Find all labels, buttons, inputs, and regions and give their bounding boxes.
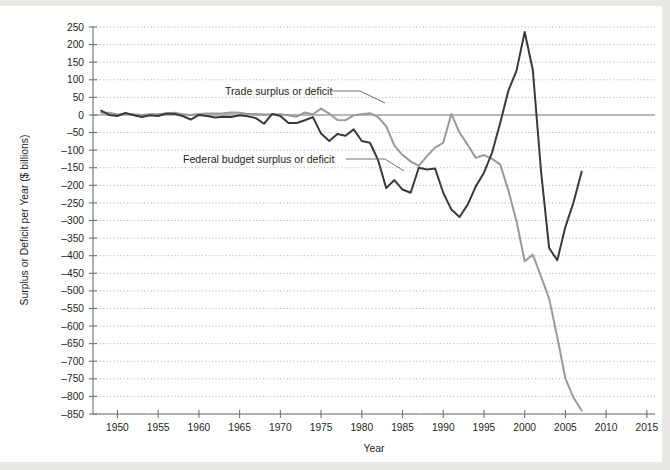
x-tick-label: 1965: [228, 422, 251, 433]
top-edge-band: [0, 0, 670, 6]
x-tick-label: 2005: [554, 422, 577, 433]
y-tick-label: –850: [61, 409, 84, 420]
x-tick-label: 1975: [310, 422, 333, 433]
y-tick-label: –450: [61, 268, 84, 279]
y-tick-label: 150: [67, 57, 84, 68]
x-tick-label: 2000: [513, 422, 536, 433]
y-axis-title: Surplus or Deficit per Year ($ billions): [19, 135, 30, 306]
right-edge-band: [662, 0, 670, 470]
y-tick-label: –250: [61, 198, 84, 209]
chart-background: [0, 0, 670, 470]
x-tick-label: 2015: [636, 422, 659, 433]
y-tick-label: –50: [67, 127, 84, 138]
budget-annotation-label: Federal budget surplus or deficit: [183, 153, 334, 165]
x-tick-label: 1990: [432, 422, 455, 433]
y-tick-label: –500: [61, 285, 84, 296]
y-tick-label: –600: [61, 321, 84, 332]
x-tick-label: 1980: [350, 422, 373, 433]
y-tick-label: –100: [61, 145, 84, 156]
bottom-edge-band: [0, 462, 670, 470]
y-tick-label: –550: [61, 303, 84, 314]
y-tick-label: 200: [67, 39, 84, 50]
y-tick-label: –400: [61, 250, 84, 261]
y-tick-label: –150: [61, 162, 84, 173]
chart-figure: 250200150100500–50–100–150–200–250–300–3…: [0, 0, 670, 470]
y-tick-label: –650: [61, 338, 84, 349]
y-tick-label: 250: [67, 22, 84, 33]
y-tick-label: –700: [61, 356, 84, 367]
x-tick-label: 1960: [188, 422, 211, 433]
y-tick-label: –300: [61, 215, 84, 226]
y-tick-label: –800: [61, 391, 84, 402]
x-axis-title: Year: [364, 443, 386, 454]
y-tick-label: 100: [67, 74, 84, 85]
y-tick-label: –350: [61, 233, 84, 244]
x-tick-label: 2010: [595, 422, 618, 433]
y-tick-label: –750: [61, 373, 84, 384]
y-tick-label: 0: [78, 110, 84, 121]
y-tick-label: 50: [73, 92, 85, 103]
y-tick-label: –200: [61, 180, 84, 191]
x-tick-label: 1970: [269, 422, 292, 433]
x-tick-label: 1955: [147, 422, 170, 433]
trade-annotation-label: Trade surplus or deficit: [225, 85, 332, 97]
x-tick-label: 1985: [391, 422, 414, 433]
x-tick-label: 1995: [473, 422, 496, 433]
x-tick-label: 1950: [106, 422, 129, 433]
